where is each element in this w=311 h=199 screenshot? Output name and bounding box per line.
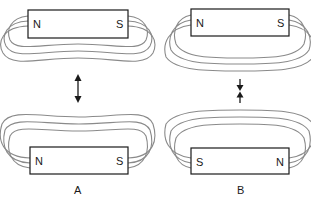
pole-label: S <box>277 17 284 29</box>
pole-label: N <box>276 156 284 168</box>
double-arrow-icon <box>75 74 82 103</box>
pole-label: N <box>196 17 204 29</box>
magnet-a-top <box>28 10 128 38</box>
magnet-diagram: N S N S A N S <box>0 0 311 199</box>
caption-a: A <box>74 184 82 196</box>
pole-label: S <box>116 155 123 167</box>
pole-label: N <box>33 18 41 30</box>
pole-label: S <box>196 156 203 168</box>
pole-label: N <box>35 155 43 167</box>
magnet-b-bottom <box>191 148 289 174</box>
converging-arrows-icon <box>237 79 244 103</box>
panel-a: N S N S A <box>0 10 155 196</box>
pole-label: S <box>116 18 123 30</box>
caption-b: B <box>237 184 244 196</box>
magnet-a-bottom <box>30 147 128 174</box>
magnet-b-top <box>191 9 289 36</box>
panel-b: N S S N B <box>165 9 311 196</box>
